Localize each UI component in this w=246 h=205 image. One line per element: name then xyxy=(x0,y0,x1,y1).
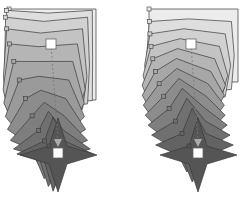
vertex-handle-icon[interactable] xyxy=(4,15,8,19)
vertex-handle-icon[interactable] xyxy=(173,119,177,123)
vertex-handle-icon[interactable] xyxy=(30,114,34,118)
vertex-handle-icon[interactable] xyxy=(47,144,51,148)
diagram-canvas xyxy=(0,0,246,205)
vertex-handle-icon[interactable] xyxy=(8,42,12,46)
start-handle-icon[interactable] xyxy=(46,39,56,49)
left-morph-figure xyxy=(3,7,97,192)
vertex-handle-icon[interactable] xyxy=(157,82,161,86)
vertex-handle-icon[interactable] xyxy=(37,128,41,132)
vertex-handle-icon[interactable] xyxy=(43,139,47,143)
right-morph-figure xyxy=(142,7,238,192)
start-handle-icon[interactable] xyxy=(186,39,196,49)
vertex-handle-icon[interactable] xyxy=(147,7,151,11)
vertex-handle-icon[interactable] xyxy=(147,20,151,24)
vertex-handle-icon[interactable] xyxy=(17,78,21,82)
vertex-handle-icon[interactable] xyxy=(187,144,191,148)
vertex-handle-icon[interactable] xyxy=(5,27,9,31)
vertex-handle-icon[interactable] xyxy=(167,107,171,111)
vertex-handle-icon[interactable] xyxy=(162,94,166,98)
vertex-handle-icon[interactable] xyxy=(149,44,153,48)
vertex-handle-icon[interactable] xyxy=(151,57,155,61)
vertex-handle-icon[interactable] xyxy=(24,97,28,101)
vertex-handle-icon[interactable] xyxy=(148,32,152,36)
vertex-handle-icon[interactable] xyxy=(12,59,16,63)
end-handle-icon[interactable] xyxy=(193,148,203,158)
vertex-handle-icon[interactable] xyxy=(180,132,184,136)
morph-diagram xyxy=(0,0,246,205)
vertex-handle-icon[interactable] xyxy=(4,8,8,12)
end-handle-icon[interactable] xyxy=(53,148,63,158)
vertex-handle-icon[interactable] xyxy=(154,69,158,73)
